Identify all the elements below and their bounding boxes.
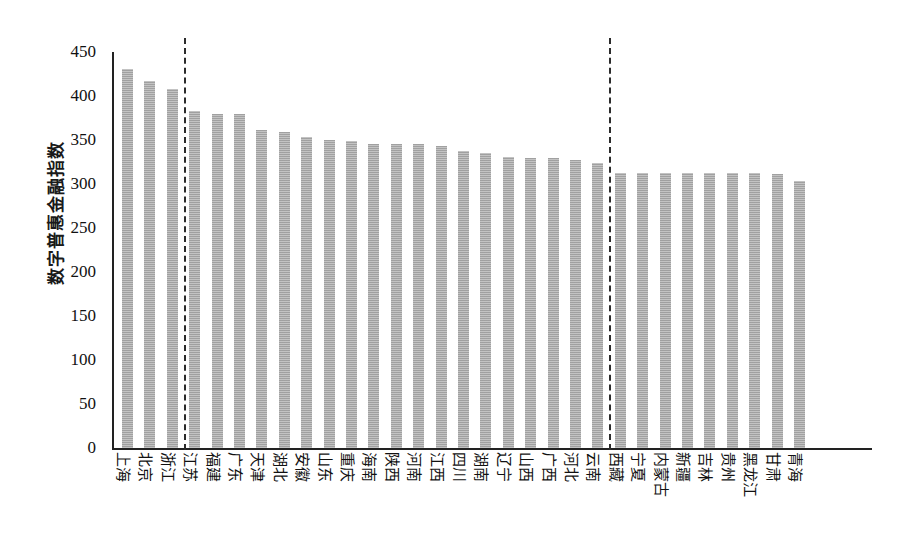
x-label-云南: 云南 — [584, 452, 605, 544]
bar-重庆 — [346, 141, 357, 448]
bar-青海 — [794, 181, 805, 448]
x-label-贵州: 贵州 — [719, 452, 740, 544]
x-label-宁夏: 宁夏 — [629, 452, 650, 544]
bar-贵州 — [727, 173, 738, 448]
x-label-广东: 广东 — [226, 452, 247, 544]
bar-甘肃 — [772, 174, 783, 448]
bar-宁夏 — [637, 173, 648, 448]
bar-福建 — [212, 114, 223, 448]
digital-finance-index-bar-chart: 数字普惠金融指数 050100150200250300350400450 上海北… — [0, 0, 902, 547]
x-label-湖南: 湖南 — [472, 452, 493, 544]
y-axis-tick-250: 250 — [71, 218, 97, 238]
bar-天津 — [256, 130, 267, 448]
x-label-新疆: 新疆 — [674, 452, 695, 544]
y-axis-tick-0: 0 — [88, 438, 97, 458]
y-axis-tick-labels: 050100150200250300350400450 — [0, 52, 104, 448]
y-axis-tick-400: 400 — [71, 86, 97, 106]
y-axis-tick-50: 50 — [79, 394, 96, 414]
bars-layer — [112, 52, 872, 448]
x-label-江苏: 江苏 — [181, 452, 202, 544]
x-label-四川: 四川 — [450, 452, 471, 544]
x-label-浙江: 浙江 — [159, 452, 180, 544]
bar-新疆 — [682, 173, 693, 448]
y-axis-tick-200: 200 — [71, 262, 97, 282]
x-label-重庆: 重庆 — [338, 452, 359, 544]
bar-河南 — [413, 144, 424, 448]
x-label-天津: 天津 — [248, 452, 269, 544]
bar-湖南 — [480, 153, 491, 448]
x-label-上海: 上海 — [114, 452, 135, 544]
x-label-北京: 北京 — [136, 452, 157, 544]
bar-浙江 — [167, 89, 178, 448]
bar-海南 — [368, 144, 379, 448]
x-label-内蒙古: 内蒙古 — [652, 452, 673, 544]
bar-辽宁 — [503, 157, 514, 448]
bar-湖北 — [279, 132, 290, 448]
bar-黑龙江 — [749, 173, 760, 448]
x-label-山东: 山东 — [316, 452, 337, 544]
y-axis-tick-450: 450 — [71, 42, 97, 62]
bar-河北 — [570, 160, 581, 448]
x-label-河南: 河南 — [405, 452, 426, 544]
x-label-青海: 青海 — [786, 452, 807, 544]
plot-area — [112, 52, 872, 448]
x-label-广西: 广西 — [540, 452, 561, 544]
bar-西藏 — [615, 173, 626, 448]
x-label-湖北: 湖北 — [271, 452, 292, 544]
divider-2 — [609, 38, 611, 450]
bar-江西 — [436, 146, 447, 448]
x-label-福建: 福建 — [204, 452, 225, 544]
bar-山东 — [324, 140, 335, 448]
bar-内蒙古 — [660, 173, 671, 448]
x-label-河北: 河北 — [562, 452, 583, 544]
bar-广西 — [548, 158, 559, 448]
divider-1 — [184, 38, 186, 450]
bar-安徽 — [301, 137, 312, 448]
x-label-甘肃: 甘肃 — [764, 452, 785, 544]
bar-北京 — [144, 81, 155, 448]
bar-上海 — [122, 69, 133, 448]
x-label-黑龙江: 黑龙江 — [741, 452, 762, 544]
bar-江苏 — [189, 111, 200, 448]
bar-陕西 — [391, 144, 402, 448]
bar-四川 — [458, 151, 469, 448]
x-axis-line — [112, 448, 872, 450]
x-axis-category-labels: 上海北京浙江江苏福建广东天津湖北安徽山东重庆海南陕西河南江西四川湖南辽宁山西广西… — [112, 452, 872, 547]
y-axis-tick-150: 150 — [71, 306, 97, 326]
bar-吉林 — [704, 173, 715, 448]
bar-广东 — [234, 114, 245, 448]
x-label-西藏: 西藏 — [607, 452, 628, 544]
x-label-山西: 山西 — [517, 452, 538, 544]
y-axis-tick-300: 300 — [71, 174, 97, 194]
x-label-陕西: 陕西 — [383, 452, 404, 544]
bar-云南 — [592, 163, 603, 448]
y-axis-tick-100: 100 — [71, 350, 97, 370]
y-axis-tick-350: 350 — [71, 130, 97, 150]
x-label-海南: 海南 — [360, 452, 381, 544]
x-label-辽宁: 辽宁 — [495, 452, 516, 544]
x-label-江西: 江西 — [428, 452, 449, 544]
x-label-吉林: 吉林 — [696, 452, 717, 544]
bar-山西 — [525, 158, 536, 448]
x-label-安徽: 安徽 — [293, 452, 314, 544]
